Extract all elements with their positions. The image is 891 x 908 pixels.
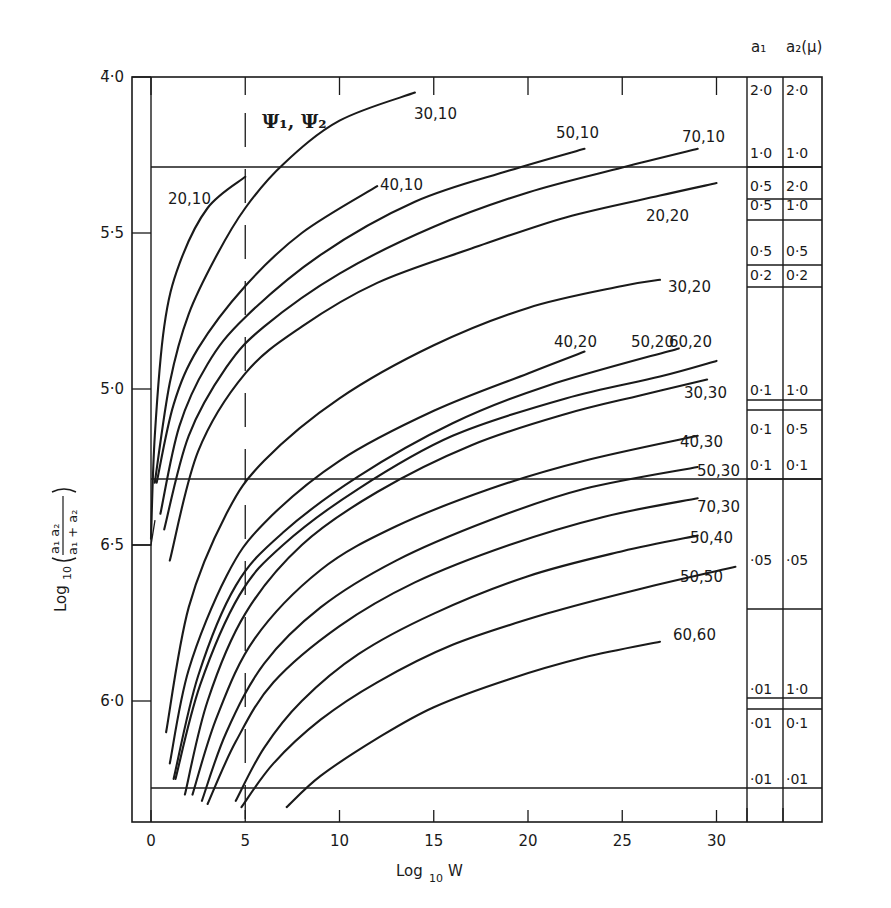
y-axis-title-numerator: a₁ a₂ bbox=[47, 524, 62, 555]
y-title-paren-left bbox=[52, 558, 76, 561]
x-tick-label: 25 bbox=[613, 832, 632, 850]
x-axis-title-log: Log bbox=[396, 862, 423, 880]
table-header-a1: a₁ bbox=[751, 38, 766, 56]
x-tick-label: 30 bbox=[707, 832, 726, 850]
curve-20-20 bbox=[170, 183, 717, 560]
curve-50-40 bbox=[236, 536, 698, 801]
table-cell-a1: 0·5 bbox=[750, 197, 772, 213]
curve-label: 50,20 bbox=[631, 333, 674, 351]
table-cell-a1: ·01 bbox=[750, 771, 772, 787]
x-axis-title-var: W bbox=[448, 862, 463, 880]
table-cell-a2: 0·5 bbox=[786, 243, 808, 259]
table-cell-a2: 1·0 bbox=[786, 382, 808, 398]
curve-label: 40,30 bbox=[680, 433, 723, 451]
curve-label: 50,40 bbox=[690, 529, 733, 547]
curve-40-20 bbox=[170, 352, 585, 764]
curve-label: 60,20 bbox=[669, 333, 712, 351]
curve-40-10 bbox=[157, 186, 378, 482]
y-tick-label: 5̄·0 bbox=[100, 380, 124, 398]
table-cell-a2: 1·0 bbox=[786, 681, 808, 697]
curve-label: 20,10 bbox=[168, 190, 211, 208]
x-axis-title: Log 10 W bbox=[396, 862, 463, 885]
y-axis-title-sub: 10 bbox=[61, 566, 74, 580]
y-tick-label: 6̄·5 bbox=[100, 536, 124, 554]
table-cell-a2: 1·0 bbox=[786, 197, 808, 213]
x-tick-label: 15 bbox=[424, 832, 443, 850]
table-cell-a2: 0·5 bbox=[786, 421, 808, 437]
curve-50-30 bbox=[202, 467, 698, 801]
x-tick-label: 5 bbox=[240, 832, 250, 850]
curve-label: 30,10 bbox=[414, 105, 457, 123]
table-cell-a1: ·01 bbox=[750, 681, 772, 697]
table-cell-a2: ·05 bbox=[786, 552, 808, 568]
curve-label: 40,20 bbox=[554, 333, 597, 351]
y-axis-title: Log 10 a₁ a₂ a₁ + a₂ bbox=[47, 489, 80, 612]
table-cell-a1: ·01 bbox=[750, 715, 772, 731]
table-cell-a2: 2·0 bbox=[786, 178, 808, 194]
table-cell-a1: 0·5 bbox=[750, 178, 772, 194]
table-cell-a2: 1·0 bbox=[786, 145, 808, 161]
curve-label: 40,10 bbox=[380, 176, 423, 194]
curve-label: 60,60 bbox=[673, 626, 716, 644]
y-axis-title-denominator: a₁ + a₂ bbox=[65, 509, 80, 555]
curve-label: 30,30 bbox=[684, 384, 727, 402]
x-tick-label: 10 bbox=[330, 832, 349, 850]
y-tick-label: 5̄·5 bbox=[100, 224, 124, 242]
curve-50-10 bbox=[160, 149, 584, 514]
table-cell-a2: 0·1 bbox=[786, 457, 808, 473]
curve-60-20 bbox=[176, 361, 717, 779]
y-tick-label: 6̄·0 bbox=[100, 692, 124, 710]
x-tick-label: 20 bbox=[518, 832, 537, 850]
table-cell-a1: 0·2 bbox=[750, 267, 772, 283]
side-table: 2·02·01·01·00·52·00·51·00·50·50·20·20·11… bbox=[747, 82, 822, 787]
curve-label: 30,20 bbox=[668, 278, 711, 296]
table-cell-a1: 1·0 bbox=[750, 145, 772, 161]
x-axis-title-sub: 10 bbox=[429, 872, 443, 885]
curve-labels: 20,1030,1040,1050,1070,1020,2030,2040,20… bbox=[168, 105, 740, 644]
y-tick-label: 4̄·0 bbox=[100, 68, 124, 86]
table-cell-a2: ·01 bbox=[786, 771, 808, 787]
chart: 20,1030,1040,1050,1070,1020,2030,2040,20… bbox=[0, 0, 891, 908]
curve-30-30 bbox=[185, 380, 707, 795]
curve-50-20 bbox=[174, 348, 679, 779]
table-cell-a1: ·05 bbox=[750, 552, 772, 568]
curve-label: 50,50 bbox=[680, 568, 723, 586]
table-cell-a1: 0·5 bbox=[750, 243, 772, 259]
table-cell-a2: 2·0 bbox=[786, 82, 808, 98]
curve-label: 50,30 bbox=[697, 462, 740, 480]
table-cell-a1: 0·1 bbox=[750, 421, 772, 437]
curve-label: 50,10 bbox=[556, 124, 599, 142]
table-cell-a1: 2·0 bbox=[750, 82, 772, 98]
table-cell-a2: 0·2 bbox=[786, 267, 808, 283]
x-tick-label: 0 bbox=[146, 832, 156, 850]
curve-label: 20,20 bbox=[646, 207, 689, 225]
y-title-paren-right bbox=[52, 489, 76, 492]
table-cell-a1: 0·1 bbox=[750, 457, 772, 473]
curves bbox=[151, 93, 735, 808]
table-cell-a2: 0·1 bbox=[786, 715, 808, 731]
curve-label: 70,10 bbox=[682, 128, 725, 146]
curve-70-30 bbox=[208, 498, 698, 804]
table-cell-a1: 0·1 bbox=[750, 382, 772, 398]
curve-label: 70,30 bbox=[697, 498, 740, 516]
y-axis-title-log: Log bbox=[52, 585, 70, 612]
psi-annotation: Ψ₁, Ψ₂ bbox=[262, 110, 327, 132]
table-header-a2: a₂(μ) bbox=[786, 38, 822, 56]
table-header: a₁ a₂(μ) bbox=[751, 38, 822, 56]
